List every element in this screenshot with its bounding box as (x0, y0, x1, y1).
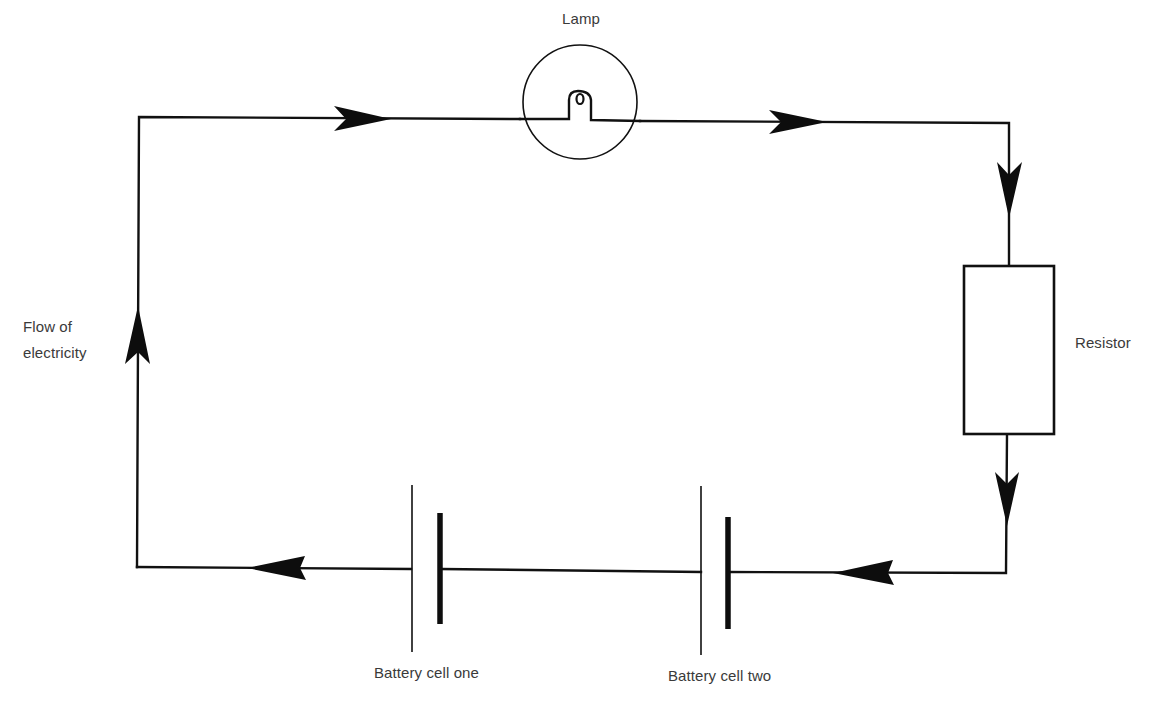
resistor (964, 266, 1054, 434)
battery-cell-one (412, 485, 440, 652)
battery-two-label: Battery cell two (668, 664, 771, 688)
wire-top-left (137, 117, 520, 567)
battery-one-label: Battery cell one (374, 661, 479, 685)
lamp (520, 45, 640, 159)
wire-between-cells (441, 569, 701, 572)
arrow-left-icon (833, 560, 894, 585)
flow-arrows (125, 106, 1022, 585)
lamp-filament-icon (520, 91, 640, 121)
lamp-circle-icon (523, 45, 637, 159)
resistor-label: Resistor (1075, 331, 1131, 355)
wire-top-right (640, 121, 1009, 266)
flow-label-line2: electricity (23, 341, 87, 365)
circuit-wires (137, 117, 1009, 573)
lamp-filament-loop-icon (577, 94, 584, 104)
flow-label-line1: Flow of (23, 315, 72, 339)
arrow-left-icon (247, 556, 306, 580)
lamp-label: Lamp (562, 7, 600, 31)
battery-cell-two (701, 486, 728, 655)
wire-bottom-right (729, 434, 1007, 573)
circuit-diagram (0, 0, 1158, 703)
